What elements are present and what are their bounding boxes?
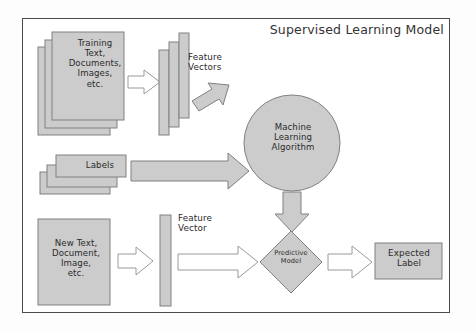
page-title: Supervised Learning Model bbox=[270, 22, 444, 37]
ml-algorithm-label: Machine Learning Algorithm bbox=[255, 122, 331, 152]
labels-stack-label: Labels bbox=[62, 160, 138, 170]
feature-vector-label: Feature Vector bbox=[178, 213, 232, 234]
training-docs-label: Training Text, Documents, Images, etc. bbox=[56, 38, 134, 89]
predictive-model-label: Predictive Model bbox=[262, 250, 320, 266]
feature-vectors-label: Feature Vectors bbox=[188, 52, 248, 73]
expected-label-label: Expected Label bbox=[376, 248, 442, 269]
diagram-canvas: .fill { fill: #cccccc; stroke: #808080; … bbox=[0, 0, 476, 331]
new-text-label: New Text, Document, Image, etc. bbox=[34, 238, 118, 279]
